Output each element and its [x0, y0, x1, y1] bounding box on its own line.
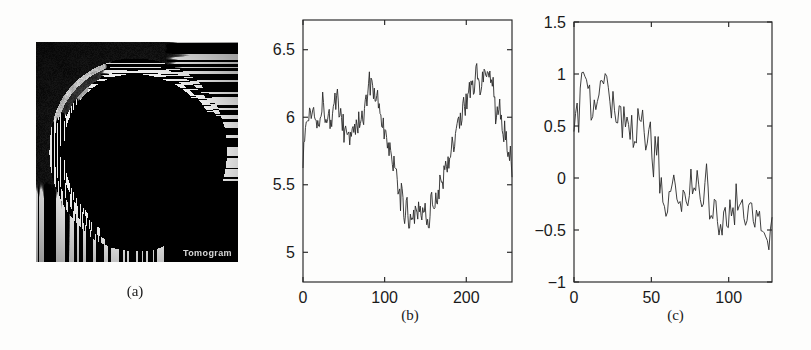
- panel-a-mri: Tomogram (a): [0, 0, 270, 350]
- panel-b-timeseries: 55.566.50100200: [270, 0, 550, 350]
- panel-c-timeseries: −1−0.500.511.5050100: [540, 0, 811, 350]
- y-tick-label: −1: [548, 274, 566, 291]
- y-tick-label: 1.5: [544, 14, 566, 31]
- series-line: [303, 64, 512, 229]
- mri-image: Tomogram: [36, 42, 238, 262]
- mri-canvas: [36, 42, 238, 262]
- y-tick-label: −0.5: [534, 222, 566, 239]
- x-tick-label: 0: [570, 289, 579, 306]
- x-tick-label: 100: [715, 289, 742, 306]
- plot-frame: [574, 22, 772, 282]
- x-tick-label: 50: [642, 289, 660, 306]
- plot-frame: [303, 20, 512, 282]
- y-tick-label: 6: [286, 109, 295, 126]
- y-tick-label: 5: [286, 244, 295, 261]
- panel-label-a: (a): [0, 283, 270, 300]
- series-line: [574, 72, 772, 250]
- x-tick-label: 100: [371, 289, 398, 306]
- y-tick-label: 1: [557, 66, 566, 83]
- figure-root: Tomogram (a) 55.566.50100200 (b) −1−0.50…: [0, 0, 811, 350]
- x-tick-label: 0: [299, 289, 308, 306]
- plot-c-svg: −1−0.500.511.5050100: [540, 0, 811, 310]
- panel-label-b: (b): [270, 307, 550, 324]
- y-tick-label: 0.5: [544, 118, 566, 135]
- y-tick-label: 0: [557, 170, 566, 187]
- mri-watermark-label: Tomogram: [183, 248, 232, 258]
- x-tick-label: 200: [453, 289, 480, 306]
- y-tick-label: 6.5: [273, 41, 295, 58]
- plot-b-svg: 55.566.50100200: [270, 0, 550, 310]
- y-tick-label: 5.5: [273, 176, 295, 193]
- panel-label-c: (c): [540, 307, 811, 324]
